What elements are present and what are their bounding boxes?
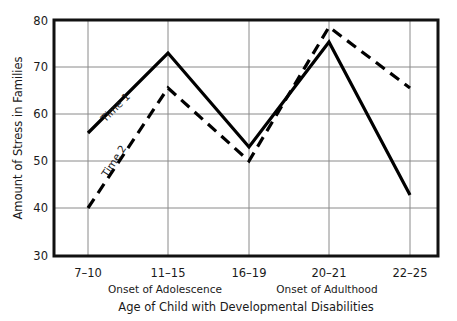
ytick-40: 40	[33, 201, 48, 215]
annotation-onset-adulthood: Onset of Adulthood	[276, 283, 377, 295]
ytick-30: 30	[33, 249, 48, 263]
ytick-50: 50	[33, 154, 48, 168]
ytick-80: 80	[33, 14, 48, 28]
x-axis-title: Age of Child with Developmental Disabili…	[118, 300, 373, 314]
chart-figure: 80 70 60 50 40 30 7–10 11–15 16–19 20–21…	[0, 0, 457, 321]
y-axis-title: Amount of Stress in Families	[11, 56, 25, 219]
xtick-11-15: 11–15	[150, 266, 185, 280]
ytick-70: 70	[33, 60, 48, 74]
xtick-7-10: 7–10	[74, 266, 102, 280]
xtick-22-25: 22–25	[392, 266, 427, 280]
xtick-16-19: 16–19	[231, 266, 266, 280]
ytick-60: 60	[33, 107, 48, 121]
stress-line-chart: 80 70 60 50 40 30 7–10 11–15 16–19 20–21…	[0, 0, 457, 321]
xtick-20-21: 20–21	[311, 266, 346, 280]
annotation-onset-adolescence: Onset of Adolescence	[108, 283, 222, 295]
